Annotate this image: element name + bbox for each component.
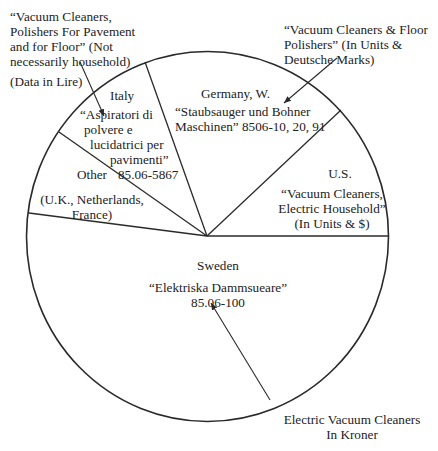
slice-label-italy: Italy: [110, 88, 134, 103]
slice-label-germany: Germany, W.: [201, 86, 270, 101]
sweden-callout-note: Electric Vacuum Cleaners In Kroner: [272, 412, 432, 442]
slice-desc-sweden: “Elektriska Dammsueare” 85.06-100: [133, 280, 303, 310]
slice-label-sweden: Sweden: [158, 258, 278, 273]
italy-currency-note: (Data in Lire): [10, 74, 83, 89]
slice-desc-other: (U.K., Netherlands, France): [30, 192, 154, 222]
slice-label-other: Other: [52, 167, 132, 182]
slice-desc-us: “Vacuum Cleaners, Electric Household” (I…: [262, 186, 402, 231]
slice-desc-germany: “Staubsauger und Bohner Maschinen” 8506-…: [175, 104, 326, 134]
germany-callout-note: “Vacuum Cleaners & Floor Polishers” (In …: [284, 22, 428, 67]
slice-label-us: U.S.: [300, 166, 380, 181]
sweden-callout-arrow: [211, 303, 270, 400]
italy-callout-note: “Vacuum Cleaners, Polishers For Pavement…: [10, 9, 135, 69]
